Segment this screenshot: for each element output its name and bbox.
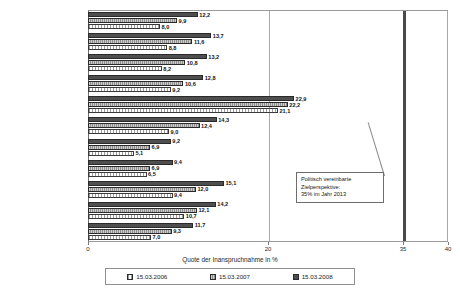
- bar-15-03-2008: [88, 96, 294, 101]
- bar-value-label: 14,3: [218, 117, 229, 123]
- bar-value-label: 8,2: [163, 66, 171, 72]
- bar-15-03-2006: [88, 108, 278, 113]
- bar-value-label: 22,2: [289, 102, 300, 108]
- bar-15-03-2006: [88, 214, 184, 219]
- bar-group: Hamburg22,922,221,1: [88, 94, 448, 115]
- bar-15-03-2006: [88, 45, 167, 50]
- bar-15-03-2008: [88, 139, 171, 144]
- bar-chart: Westdeutschland12,29,98,0Baden-Württembe…: [0, 0, 460, 297]
- annotation-box: Politisch vereinbarte Zielperspektive: 3…: [296, 172, 384, 203]
- bar-15-03-2006: [88, 193, 173, 198]
- x-tick-mark: [268, 242, 269, 245]
- legend-swatch-icon-2008: [293, 274, 299, 280]
- bar-group: Rheinland-Pfalz15,112,09,4: [88, 179, 448, 200]
- bar-value-label: 9,0: [171, 129, 179, 135]
- bar-15-03-2007: [88, 123, 200, 128]
- bar-value-label: 14,2: [217, 201, 228, 207]
- bar-value-label: 12,1: [198, 207, 209, 213]
- bar-value-label: 6,5: [148, 171, 156, 177]
- bar-value-label: 12,2: [199, 12, 210, 18]
- legend-item-2006: 15.03.2006: [127, 273, 167, 280]
- bar-15-03-2008: [88, 75, 203, 80]
- bar-15-03-2007: [88, 60, 185, 65]
- legend-label-2007: 15.03.2007: [219, 273, 250, 280]
- bar-value-label: 9,2: [172, 87, 180, 93]
- bar-15-03-2007: [88, 39, 192, 44]
- bar-15-03-2007: [88, 166, 150, 171]
- bar-15-03-2006: [88, 66, 162, 71]
- bar-value-label: 8,8: [169, 45, 177, 51]
- bar-15-03-2007: [88, 18, 177, 23]
- bar-value-label: 10,6: [185, 81, 196, 87]
- bar-value-label: 11,6: [194, 39, 205, 45]
- bar-group: Hessen14,312,49,0: [88, 115, 448, 136]
- bar-value-label: 11,7: [195, 222, 206, 228]
- bar-group: Bayern13,210,88,2: [88, 52, 448, 73]
- bar-15-03-2006: [88, 129, 169, 134]
- bar-value-label: 6,9: [152, 144, 160, 150]
- bar-value-label: 7,0: [153, 234, 161, 240]
- bar-value-label: 9,2: [172, 138, 180, 144]
- x-tick-label: 40: [445, 246, 452, 252]
- bar-15-03-2007: [88, 145, 150, 150]
- bar-15-03-2006: [88, 87, 171, 92]
- bar-value-label: 9,4: [174, 192, 182, 198]
- legend-swatch-icon-2006: [127, 274, 133, 280]
- bar-value-label: 12,4: [201, 123, 212, 129]
- bar-value-label: 15,1: [225, 180, 236, 186]
- bar-15-03-2006: [88, 172, 147, 177]
- x-tick-mark: [448, 242, 449, 245]
- legend-label-2008: 15.03.2008: [302, 273, 333, 280]
- bar-value-label: 9,4: [174, 159, 182, 165]
- x-tick-mark: [88, 242, 89, 245]
- annotation-line-2: Zielperspektive:: [301, 184, 379, 192]
- bar-15-03-2007: [88, 208, 197, 213]
- bar-15-03-2008: [88, 181, 224, 186]
- bar-15-03-2007: [88, 229, 172, 234]
- bar-value-label: 12,8: [205, 75, 216, 81]
- bar-value-label: 13,2: [208, 54, 219, 60]
- bar-value-label: 9,9: [179, 18, 187, 24]
- bar-value-label: 8,0: [162, 24, 170, 30]
- bar-group: Schleswig-Holstein11,79,37,0: [88, 221, 448, 242]
- bar-15-03-2008: [88, 54, 207, 59]
- annotation-line-1: Politisch vereinbarte: [301, 176, 379, 184]
- x-tick-label: 20: [265, 246, 272, 252]
- bar-value-label: 12,0: [198, 186, 209, 192]
- bar-rows: Westdeutschland12,29,98,0Baden-Württembe…: [88, 10, 448, 242]
- bar-15-03-2006: [88, 151, 134, 156]
- bar-group: Westdeutschland12,29,98,0: [88, 10, 448, 31]
- bar-group: Saarland14,212,110,7: [88, 200, 448, 221]
- bar-15-03-2008: [88, 223, 193, 228]
- bar-group: Baden-Württemberg13,711,68,8: [88, 31, 448, 52]
- bar-value-label: 9,3: [173, 228, 181, 234]
- bar-value-label: 5,1: [135, 150, 143, 156]
- bar-15-03-2007: [88, 102, 288, 107]
- bar-15-03-2006: [88, 24, 160, 29]
- bar-value-label: 21,1: [279, 108, 290, 114]
- bar-value-label: 10,8: [187, 60, 198, 66]
- bar-15-03-2008: [88, 202, 216, 207]
- bar-15-03-2008: [88, 160, 173, 165]
- x-tick-label: 0: [86, 246, 89, 252]
- chart-legend: 15.03.2006 15.03.2007 15.03.2008: [105, 268, 355, 285]
- bar-15-03-2008: [88, 117, 217, 122]
- legend-item-2008: 15.03.2008: [293, 273, 333, 280]
- annotation-line-3: 35% im Jahr 2013: [301, 191, 379, 199]
- bar-group: Niedersachsen9,26,95,1: [88, 137, 448, 158]
- legend-swatch-icon-2007: [210, 274, 216, 280]
- bar-15-03-2007: [88, 81, 183, 86]
- bar-15-03-2008: [88, 33, 211, 38]
- legend-item-2007: 15.03.2007: [210, 273, 250, 280]
- x-axis-title: Quote der Inanspruchnahme in %: [0, 256, 460, 263]
- x-tick-mark: [403, 242, 404, 245]
- bar-group: Bremen12,810,69,2: [88, 73, 448, 94]
- bar-15-03-2006: [88, 235, 151, 240]
- x-tick-label: 35: [400, 246, 407, 252]
- bar-value-label: 10,7: [186, 213, 197, 219]
- bar-group: Nordrhein-Westfalen9,46,96,5: [88, 158, 448, 179]
- bar-15-03-2007: [88, 187, 196, 192]
- bar-value-label: 13,7: [213, 33, 224, 39]
- bar-15-03-2008: [88, 12, 198, 17]
- legend-label-2006: 15.03.2006: [136, 273, 167, 280]
